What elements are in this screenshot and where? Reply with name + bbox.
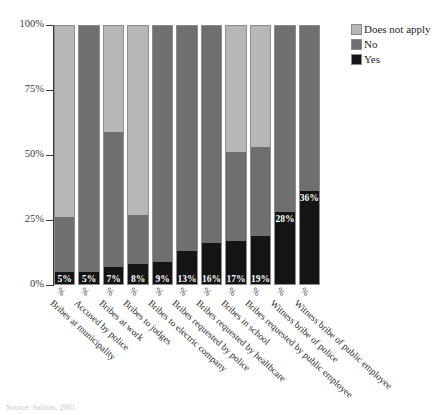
x-tick-percent-label: % bbox=[177, 286, 189, 298]
x-tick-percent-label: % bbox=[201, 286, 213, 298]
x-tick-percent-label: % bbox=[250, 286, 262, 298]
x-tick-percent-label: % bbox=[299, 286, 311, 298]
x-tick-percent-label: % bbox=[104, 286, 116, 298]
x-tick-percent-label: % bbox=[55, 286, 67, 298]
x-tick-percent-label: % bbox=[152, 286, 164, 298]
bar-segment-no bbox=[78, 25, 99, 272]
bar-value-label: 7% bbox=[103, 274, 124, 284]
bar-column[interactable]: 28% bbox=[274, 25, 295, 285]
bar-segment-does-not-apply bbox=[103, 25, 124, 132]
bar-column[interactable]: 19% bbox=[250, 25, 271, 285]
bar-segment-does-not-apply bbox=[127, 25, 148, 215]
bar-value-label: 36% bbox=[299, 193, 320, 203]
y-tick-label: 75% bbox=[0, 84, 44, 94]
bar-segment-no bbox=[103, 132, 124, 267]
bar-column[interactable]: 17% bbox=[225, 25, 246, 285]
bar-value-label: 28% bbox=[274, 214, 295, 224]
bar-column[interactable]: 16% bbox=[201, 25, 222, 285]
legend-item-label: No bbox=[364, 39, 377, 50]
bar-value-label: 13% bbox=[176, 274, 197, 284]
legend-swatch-icon bbox=[351, 39, 362, 50]
bar-segment-no bbox=[299, 25, 320, 191]
bar-value-label: 5% bbox=[54, 274, 75, 284]
legend-item-does_not_apply[interactable]: Does not apply bbox=[351, 23, 431, 36]
bar-segment-no bbox=[152, 25, 173, 262]
x-tick-percent-label: % bbox=[275, 286, 287, 298]
x-tick-percent-label: % bbox=[128, 286, 140, 298]
bar-segment-does-not-apply bbox=[225, 25, 246, 152]
bar-segment-does-not-apply bbox=[250, 25, 271, 147]
x-axis-category-label: Bribes requested by public employee bbox=[244, 298, 355, 400]
plot-area: 5%5%7%8%9%13%16%17%19%28%36% bbox=[54, 25, 320, 285]
bar-value-label: 5% bbox=[78, 274, 99, 284]
y-tick-mark bbox=[46, 155, 53, 156]
bar-value-label: 17% bbox=[225, 274, 246, 284]
legend: Does not applyNoYes bbox=[351, 23, 431, 68]
x-tick-percent-label: % bbox=[226, 286, 238, 298]
y-tick-label-wrap: 75% bbox=[0, 84, 44, 94]
bar-segment-yes bbox=[299, 191, 320, 285]
bar-column[interactable]: 7% bbox=[103, 25, 124, 285]
bar-segment-no bbox=[54, 217, 75, 272]
legend-item-yes[interactable]: Yes bbox=[351, 53, 431, 66]
legend-item-label: Yes bbox=[364, 54, 380, 65]
y-tick-label: 100% bbox=[0, 19, 44, 29]
bar-column[interactable]: 13% bbox=[176, 25, 197, 285]
y-tick-label-wrap: 100% bbox=[0, 19, 44, 29]
bar-value-label: 8% bbox=[127, 274, 148, 284]
legend-swatch-icon bbox=[351, 24, 362, 35]
bar-segment-no bbox=[225, 152, 246, 240]
x-axis-category-labels: %Bribes at municipality%Accused by polic… bbox=[0, 285, 437, 395]
bar-column[interactable]: 9% bbox=[152, 25, 173, 285]
bar-value-label: 19% bbox=[250, 274, 271, 284]
bar-segment-no bbox=[250, 147, 271, 235]
y-tick-label-wrap: 25% bbox=[0, 214, 44, 224]
bar-value-label: 16% bbox=[201, 274, 222, 284]
legend-item-label: Does not apply bbox=[364, 24, 431, 35]
bar-column[interactable]: 5% bbox=[78, 25, 99, 285]
x-axis-category-label: Witness bribe of public employee bbox=[293, 298, 395, 391]
bar-column[interactable]: 8% bbox=[127, 25, 148, 285]
stacked-bar-chart: 0%25%50%75%100% 5%5%7%8%9%13%16%17%19%28… bbox=[0, 0, 437, 415]
legend-swatch-icon bbox=[351, 54, 362, 65]
bar-segment-no bbox=[176, 25, 197, 251]
bar-column[interactable]: 36% bbox=[299, 25, 320, 285]
bar-column[interactable]: 5% bbox=[54, 25, 75, 285]
bar-segment-no bbox=[274, 25, 295, 212]
y-tick-mark bbox=[46, 220, 53, 221]
source-note: Source: Salinas, 2001 bbox=[6, 403, 76, 412]
bar-segment-does-not-apply bbox=[54, 25, 75, 217]
y-tick-label-wrap: 50% bbox=[0, 149, 44, 159]
bar-segment-no bbox=[201, 25, 222, 243]
x-tick-percent-label: % bbox=[79, 286, 91, 298]
y-tick-mark bbox=[46, 25, 53, 26]
bar-value-label: 9% bbox=[152, 274, 173, 284]
legend-item-no[interactable]: No bbox=[351, 38, 431, 51]
y-tick-label: 25% bbox=[0, 214, 44, 224]
y-tick-label: 50% bbox=[0, 149, 44, 159]
y-tick-mark bbox=[46, 90, 53, 91]
bar-segment-no bbox=[127, 215, 148, 264]
